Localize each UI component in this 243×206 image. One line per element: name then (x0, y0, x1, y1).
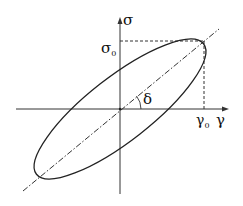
strain-amplitude-subscript: 0 (204, 121, 209, 130)
origin-point (119, 108, 121, 110)
strain-amplitude-label: γ0 (196, 113, 209, 127)
stress-amplitude-base: σ (101, 39, 111, 57)
stress-amplitude-subscript: 0 (111, 49, 116, 58)
y-axis-arrow-icon (118, 17, 123, 24)
major-axis-line (23, 29, 219, 191)
phase-angle-arc (137, 96, 142, 109)
x-axis-label: γ (216, 113, 225, 128)
phase-angle-label: δ (143, 92, 152, 107)
hysteresis-diagram (0, 0, 243, 206)
y-axis-label: σ (123, 13, 133, 28)
stress-amplitude-label: σ0 (101, 41, 116, 56)
